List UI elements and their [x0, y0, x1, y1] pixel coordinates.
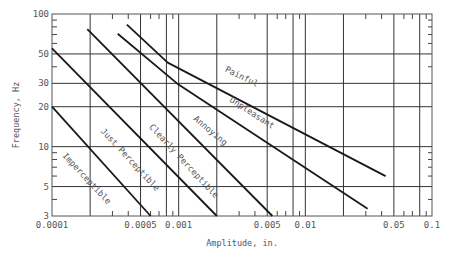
y-tick-label: 20: [38, 102, 49, 112]
x-tick-label: 0.0001: [36, 220, 69, 230]
curve-label: Imperceptible: [61, 151, 114, 206]
x-tick-label: 0.005: [254, 220, 281, 230]
y-tick-label: 30: [38, 78, 49, 88]
x-tick-label: 0.01: [294, 220, 316, 230]
curve-label: Just Perceptible: [99, 126, 162, 193]
curve-label: Painful: [224, 64, 261, 89]
curve-label: Annoying: [192, 113, 230, 147]
curve-label: Unpleasant: [228, 94, 276, 130]
x-tick-label: 0.05: [383, 220, 405, 230]
curve-labels: ImperceptibleJust PerceptibleClearly Per…: [61, 64, 277, 206]
threshold-curve-5: [127, 25, 386, 176]
threshold-curve-3: [87, 29, 272, 216]
y-axis-tick-labels: 1005030201053: [33, 9, 49, 221]
y-tick-label: 5: [44, 182, 49, 192]
y-tick-label: 100: [33, 9, 49, 19]
threshold-curve-2: [52, 48, 217, 216]
y-tick-label: 50: [38, 49, 49, 59]
x-tick-label: 0.0005: [124, 220, 157, 230]
x-axis-tick-labels: 0.00010.00050.0010.0050.010.050.1: [36, 220, 440, 230]
y-tick-label: 10: [38, 142, 49, 152]
y-axis-title: Frequency, Hz: [11, 82, 21, 149]
x-tick-label: 0.1: [424, 220, 440, 230]
x-tick-label: 0.001: [165, 220, 192, 230]
vibration-perception-chart: ImperceptibleJust PerceptibleClearly Per…: [0, 0, 450, 258]
x-axis-title: Amplitude, in.: [206, 238, 278, 248]
y-tick-label: 3: [44, 211, 49, 221]
